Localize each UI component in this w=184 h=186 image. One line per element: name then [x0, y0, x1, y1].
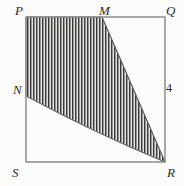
vertex-label-q: Q — [166, 4, 175, 17]
geometry-figure: P M Q N S R 4 — [0, 0, 184, 186]
side-length-label-qr: 4 — [166, 82, 172, 94]
figure-canvas — [0, 0, 184, 186]
vertex-label-m: M — [99, 4, 110, 17]
shaded-region-pmrn — [26, 17, 165, 162]
vertex-label-r: R — [167, 166, 175, 179]
shaded-region-fill — [26, 17, 165, 162]
vertex-label-s: S — [12, 166, 19, 179]
vertex-label-p: P — [15, 4, 23, 17]
vertex-label-n: N — [13, 83, 22, 96]
